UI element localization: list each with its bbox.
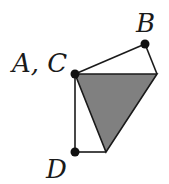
label-b: B <box>136 10 155 36</box>
edge-ac-b <box>75 44 145 74</box>
label-d: D <box>46 156 67 182</box>
point-b-dot <box>141 40 150 49</box>
shaded-triangle <box>75 74 157 152</box>
point-ac-dot <box>71 70 80 79</box>
point-d-dot <box>71 148 80 157</box>
edge-b-corner <box>145 44 157 74</box>
label-a-c: A, C <box>12 50 67 76</box>
geometry-diagram: A, C B D <box>0 0 169 184</box>
